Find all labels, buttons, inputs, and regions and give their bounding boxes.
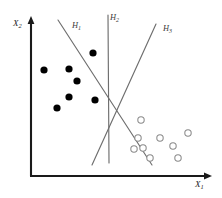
hyperplane-h2-line: [108, 15, 109, 163]
data-point-hollow: [175, 155, 181, 161]
data-point-hollow: [131, 146, 137, 152]
data-point-filled: [89, 49, 96, 56]
x-axis-label-text: X: [195, 179, 201, 189]
data-point-hollow: [138, 117, 144, 123]
x-axis-label-subscript: 1: [201, 183, 204, 190]
data-point-filled: [40, 66, 47, 73]
data-point-filled: [53, 104, 60, 111]
data-point-hollow: [140, 145, 146, 151]
y-axis-arrowhead: [28, 16, 35, 24]
hyperplane-h1-label-subscript: 1: [78, 25, 81, 31]
axes-group: [28, 16, 212, 179]
hollow-points-group: [131, 117, 191, 161]
x-axis-arrowhead: [204, 173, 212, 180]
hyperplane-h3-label: H3: [163, 25, 172, 33]
data-point-filled: [65, 93, 72, 100]
data-point-filled: [65, 65, 72, 72]
data-point-hollow: [185, 130, 191, 136]
hyperplanes-group: [58, 15, 156, 165]
filled-points-group: [40, 49, 98, 111]
hyperplane-h1-line: [58, 20, 152, 165]
hyperplane-h2-label-subscript: 2: [116, 17, 119, 23]
hyperplane-h2-label: H2: [110, 14, 119, 22]
data-point-hollow: [135, 135, 141, 141]
data-point-filled: [91, 96, 98, 103]
x-axis-label: X1: [195, 180, 204, 189]
svm-hyperplane-figure: X2 X1 H1 H2 H3: [0, 0, 222, 198]
hyperplane-h3-label-subscript: 3: [169, 28, 172, 34]
y-axis-label: X2: [13, 19, 22, 28]
data-point-hollow: [170, 143, 176, 149]
hyperplane-h1-label: H1: [72, 22, 81, 30]
y-axis-label-subscript: 2: [19, 22, 22, 29]
data-point-filled: [73, 77, 80, 84]
y-axis-label-text: X: [13, 18, 19, 28]
figure-canvas: [0, 0, 222, 198]
data-point-hollow: [147, 155, 153, 161]
data-point-hollow: [157, 135, 163, 141]
hyperplane-h3-line: [92, 24, 156, 165]
